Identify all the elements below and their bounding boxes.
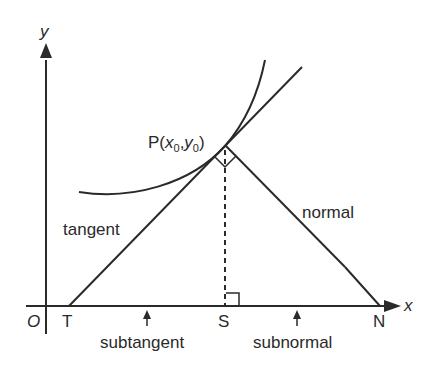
origin-label: O bbox=[27, 312, 40, 331]
normal-label: normal bbox=[302, 203, 354, 222]
tangent-label: tangent bbox=[63, 220, 120, 239]
tangent-normal-diagram: y x O T S N P(x0,y0) tangent normal subt… bbox=[0, 0, 435, 370]
point-s-label: S bbox=[218, 312, 229, 331]
point-p-x-var: x bbox=[164, 133, 174, 152]
curve bbox=[79, 60, 265, 194]
subnormal-label: subnormal bbox=[253, 333, 332, 352]
point-p-label: P(x0,y0) bbox=[148, 133, 205, 154]
subtangent-label: subtangent bbox=[100, 333, 184, 352]
point-t-label: T bbox=[62, 312, 72, 331]
right-angle-marker-s bbox=[226, 293, 239, 306]
point-n-label: N bbox=[373, 312, 385, 331]
x-axis-arrow-icon bbox=[384, 300, 401, 312]
subnormal-arrow-icon bbox=[293, 310, 301, 319]
x-axis-label: x bbox=[403, 296, 413, 315]
y-axis-label: y bbox=[39, 22, 50, 41]
y-axis-arrow-icon bbox=[40, 43, 52, 58]
normal-line-lower bbox=[345, 267, 380, 306]
diagram-canvas: y x O T S N P(x0,y0) tangent normal subt… bbox=[0, 0, 435, 370]
point-p-suffix: ) bbox=[199, 133, 205, 152]
subtangent-arrow-icon bbox=[143, 310, 151, 319]
point-p-prefix: P( bbox=[148, 133, 165, 152]
